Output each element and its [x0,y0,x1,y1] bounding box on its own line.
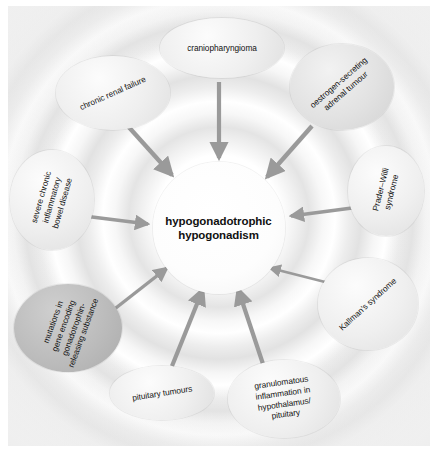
node-prader-willi-syndrome[interactable]: Prader–Willi syndrome [348,146,424,236]
arrow-prader-willi-syndrome [291,208,352,216]
node-gnrh-gene-mutations-label: mutations in gene encoding gonadotrophin… [35,286,100,369]
node-kallmans-syndrome-shape: Kallman's syndrome [318,258,418,350]
center-node: hypogonadotrophic hypogonadism [153,162,285,294]
node-prader-willi-syndrome-shape: Prader–Willi syndrome [348,146,424,236]
node-kallmans-syndrome-label: Kallman's syndrome [337,275,399,332]
diagram-canvas: hypogonadotrophic hypogonadism craniopha… [0,0,437,452]
node-granulomatous-inflammation-label: granulomatous inflammation in hypothalam… [254,374,315,424]
node-severe-chronic-ibd[interactable]: severe chronic inflammatory bowel diseas… [10,150,94,250]
node-chronic-renal-failure-label: chronic renal failure [78,74,148,113]
node-chronic-renal-failure[interactable]: chronic renal failure [56,56,170,130]
node-kallmans-syndrome[interactable]: Kallman's syndrome [318,258,418,350]
node-oestrogen-secreting-adrenal-tumour[interactable]: oestrogen-secreting adrenal tumour [290,44,394,130]
arrow-pituitary-tumours [172,289,203,366]
node-craniopharyngioma[interactable]: craniopharyngioma [160,18,284,78]
node-gnrh-gene-mutations[interactable]: mutations in gene encoding gonadotrophin… [14,284,122,372]
node-gnrh-gene-mutations-shape: mutations in gene encoding gonadotrophin… [14,284,122,372]
node-pituitary-tumours[interactable]: pituitary tumours [110,366,214,420]
arrow-chronic-renal-failure [126,124,172,175]
node-granulomatous-inflammation[interactable]: granulomatous inflammation in hypothalam… [228,360,340,438]
node-craniopharyngioma-shape: craniopharyngioma [160,18,284,78]
arrow-oestrogen-secreting-adrenal-tumour [267,126,312,177]
node-pituitary-tumours-shape: pituitary tumours [110,366,214,420]
center-node-label: hypogonadotrophic hypogonadism [153,214,285,243]
node-pituitary-tumours-label: pituitary tumours [131,383,192,403]
node-oestrogen-secreting-adrenal-tumour-shape: oestrogen-secreting adrenal tumour [290,44,394,130]
node-prader-willi-syndrome-label: Prader–Willi syndrome [370,167,402,215]
node-chronic-renal-failure-shape: chronic renal failure [56,56,170,130]
node-oestrogen-secreting-adrenal-tumour-label: oestrogen-secreting adrenal tumour [308,55,377,119]
node-craniopharyngioma-label: craniopharyngioma [187,43,257,54]
node-granulomatous-inflammation-shape: granulomatous inflammation in hypothalam… [228,360,340,438]
node-severe-chronic-ibd-shape: severe chronic inflammatory bowel diseas… [10,150,94,250]
node-severe-chronic-ibd-label: severe chronic inflammatory bowel diseas… [29,170,75,230]
arrow-granulomatous-inflammation [238,289,263,364]
